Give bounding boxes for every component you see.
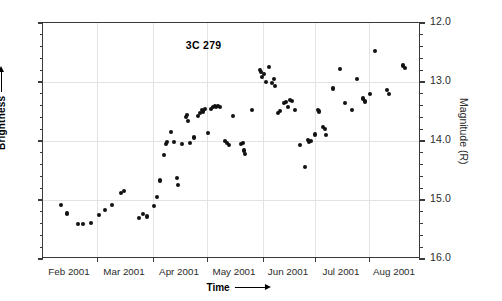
data-point [186, 119, 190, 123]
data-point [162, 153, 166, 157]
data-point [218, 105, 222, 109]
data-point [137, 216, 141, 220]
x-axis-tick-label: Feb 2001 [48, 266, 89, 277]
y-tick-left-minor [40, 188, 43, 189]
y-tick-left-major [38, 199, 43, 200]
y-tick-right-minor [419, 34, 423, 35]
data-point [313, 132, 317, 136]
x-axis-title: Time [206, 282, 270, 293]
data-point [176, 183, 180, 187]
data-points-layer [43, 23, 419, 257]
data-point [373, 49, 377, 53]
x-tick-major [207, 257, 208, 262]
data-point [155, 195, 159, 199]
y-tick-right-major [419, 81, 425, 82]
data-point [303, 165, 307, 169]
data-point [158, 178, 162, 182]
data-point [59, 203, 63, 207]
y-tick-right-minor [419, 176, 423, 177]
right-arrow-icon [235, 283, 271, 292]
y-tick-right-minor [419, 105, 423, 106]
y-tick-left-minor [40, 152, 43, 153]
y-tick-right-minor [419, 70, 423, 71]
chart-title: 3C 279 [186, 39, 222, 51]
data-point [81, 222, 85, 226]
y-tick-left-minor [40, 70, 43, 71]
y-tick-left-minor [40, 176, 43, 177]
data-point [309, 139, 313, 143]
data-point [324, 133, 328, 137]
y-tick-right-minor [419, 58, 423, 59]
plot-area: 3C 279 [42, 22, 420, 258]
x-axis-title-text: Time [206, 282, 229, 293]
y-tick-left-minor [40, 129, 43, 130]
data-point [350, 108, 354, 112]
y-axis-tick-label: 14.0 [430, 133, 451, 145]
data-point [169, 130, 173, 134]
data-point [264, 80, 268, 84]
y-tick-left-minor [40, 247, 43, 248]
y-tick-left-minor [40, 235, 43, 236]
x-tick-major [263, 257, 264, 262]
chart-canvas: Brightness 3C 279 12.013.014.015.016.0 F… [0, 0, 502, 301]
data-point [338, 67, 342, 71]
y-tick-right-minor [419, 129, 423, 130]
x-axis-tick-label: Apr 2001 [159, 266, 199, 277]
y-tick-right-minor [419, 211, 423, 212]
y-axis-tick-label: 15.0 [430, 192, 451, 204]
data-point [227, 143, 231, 147]
x-axis-tick-label: Jul 2001 [322, 266, 359, 277]
y-tick-left-major [38, 81, 43, 82]
data-point [152, 204, 156, 208]
y-tick-right-minor [419, 46, 423, 47]
data-point [145, 214, 149, 218]
y-tick-left-minor [40, 58, 43, 59]
y-tick-left-minor [40, 223, 43, 224]
data-point [368, 92, 372, 96]
data-point [165, 140, 169, 144]
y-tick-left-minor [40, 34, 43, 35]
data-point [323, 127, 327, 131]
data-point [317, 109, 321, 113]
y-tick-right-minor [419, 235, 423, 236]
data-point [250, 108, 254, 112]
y-tick-left-major [38, 140, 43, 141]
data-point [203, 107, 207, 111]
data-point [110, 203, 114, 207]
x-tick-major [153, 257, 154, 262]
data-point [293, 108, 297, 112]
y-axis-left-title: Brightness [0, 66, 7, 150]
data-point [97, 213, 101, 217]
data-point [172, 140, 176, 144]
x-axis-tick-label: Jun 2001 [268, 266, 308, 277]
data-point [343, 101, 347, 105]
y-tick-right-minor [419, 164, 423, 165]
y-axis-tick-label: 16.0 [430, 251, 451, 263]
data-point [175, 176, 179, 180]
data-point [122, 189, 126, 193]
y-tick-right-minor [419, 117, 423, 118]
data-point [363, 99, 367, 103]
y-tick-right-minor [419, 223, 423, 224]
y-tick-right-major [419, 140, 425, 141]
data-point [331, 86, 335, 90]
x-tick-major [369, 257, 370, 262]
y-tick-right-major [419, 22, 425, 23]
y-tick-left-minor [40, 46, 43, 47]
y-axis-tick-label: 12.0 [430, 15, 451, 27]
data-point [180, 142, 184, 146]
data-point [103, 208, 107, 212]
data-point [262, 72, 266, 76]
data-point [298, 143, 302, 147]
y-tick-left-major [38, 22, 43, 23]
data-point [290, 99, 294, 103]
data-point [387, 92, 391, 96]
x-axis-tick-label: Aug 2001 [373, 266, 415, 277]
y-axis-right-title: Magnitude (R) [458, 98, 470, 165]
y-tick-right-major [419, 258, 425, 259]
data-point [65, 211, 69, 215]
x-axis-tick-label: Mar 2001 [103, 266, 144, 277]
data-point [278, 109, 282, 113]
data-point [188, 141, 192, 145]
data-point [243, 152, 247, 156]
